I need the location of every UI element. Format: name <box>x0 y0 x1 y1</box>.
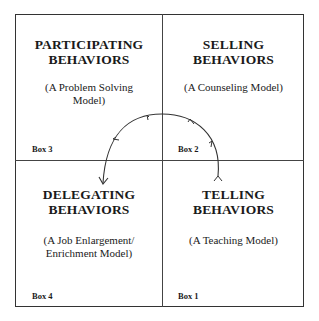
arc-tick-icon <box>147 115 149 120</box>
cycle-arc-arrow <box>0 0 319 321</box>
arc-tick-icon <box>113 137 119 140</box>
arc-tick-icon <box>209 141 212 147</box>
